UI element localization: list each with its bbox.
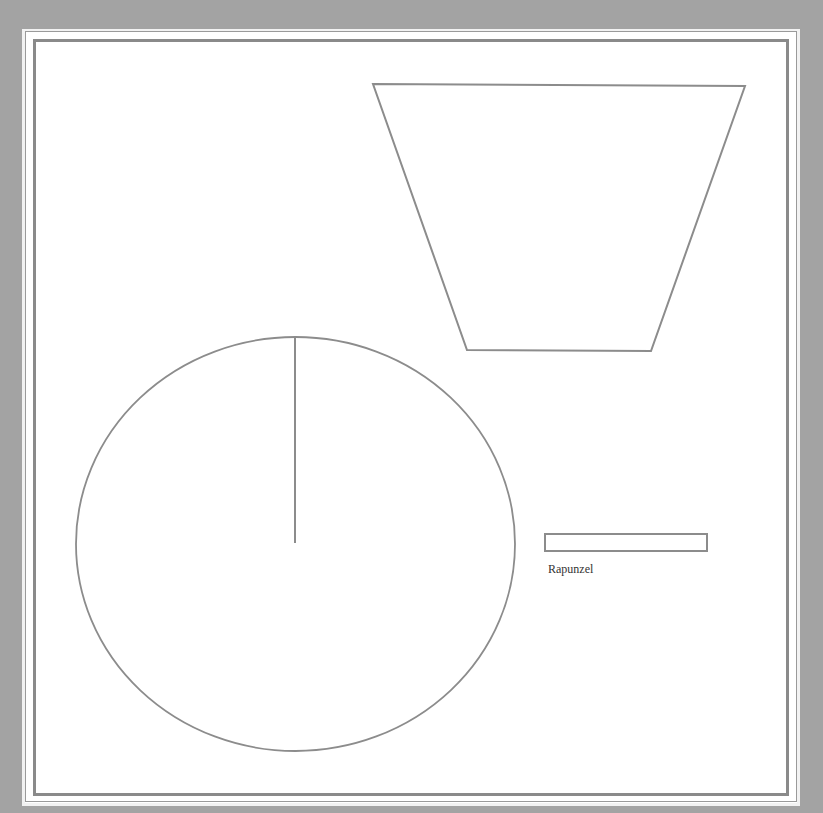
bar-label: Rapunzel [548,562,593,577]
trapezoid-shape [373,84,745,351]
drawing-canvas [0,0,823,813]
rapunzel-bar [545,534,707,551]
